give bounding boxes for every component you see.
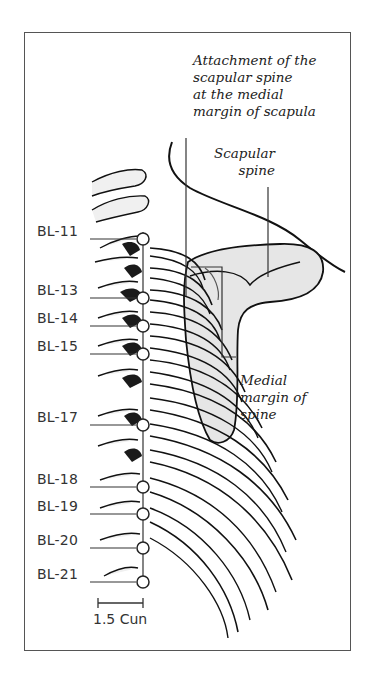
annotation-line: Medial bbox=[240, 372, 306, 389]
scale-bar bbox=[98, 598, 143, 608]
scale-bar-label: 1.5 Cun bbox=[93, 611, 147, 627]
point-label-bl-19: BL-19 bbox=[37, 498, 78, 514]
annotation-line: Scapular bbox=[200, 145, 275, 162]
point-label-bl-21: BL-21 bbox=[37, 566, 78, 582]
acupoint-bl-17 bbox=[137, 419, 149, 431]
point-label-bl-17: BL-17 bbox=[37, 409, 78, 425]
point-label-bl-11: BL-11 bbox=[37, 223, 78, 239]
annotation-line: Attachment of the bbox=[193, 52, 316, 69]
annotation-line: spine bbox=[240, 406, 306, 423]
point-label-bl-20: BL-20 bbox=[37, 532, 78, 548]
acupoint-bl-13 bbox=[137, 292, 149, 304]
acupoint-bl-21 bbox=[137, 576, 149, 588]
annotation-line: margin of bbox=[240, 389, 306, 406]
annotation-medial-margin: Medial margin of spine bbox=[240, 372, 306, 423]
annotation-line: at the medial bbox=[193, 86, 316, 103]
annotation-attachment: Attachment of the scapular spine at the … bbox=[193, 52, 316, 120]
acupoint-bl-18 bbox=[137, 481, 149, 493]
annotation-line: margin of scapula bbox=[193, 103, 316, 120]
point-label-bl-13: BL-13 bbox=[37, 282, 78, 298]
acupoint-bl-20 bbox=[137, 542, 149, 554]
point-label-bl-15: BL-15 bbox=[37, 338, 78, 354]
annotation-line: scapular spine bbox=[193, 69, 316, 86]
acupoint-bl-11 bbox=[137, 233, 149, 245]
acupoint-bl-15 bbox=[137, 348, 149, 360]
annotation-line: spine bbox=[200, 162, 275, 179]
point-label-bl-18: BL-18 bbox=[37, 471, 78, 487]
acupoint-bl-19 bbox=[137, 508, 149, 520]
acupoint-bl-14 bbox=[137, 320, 149, 332]
point-label-bl-14: BL-14 bbox=[37, 310, 78, 326]
annotation-scapular-spine: Scapular spine bbox=[200, 145, 275, 179]
